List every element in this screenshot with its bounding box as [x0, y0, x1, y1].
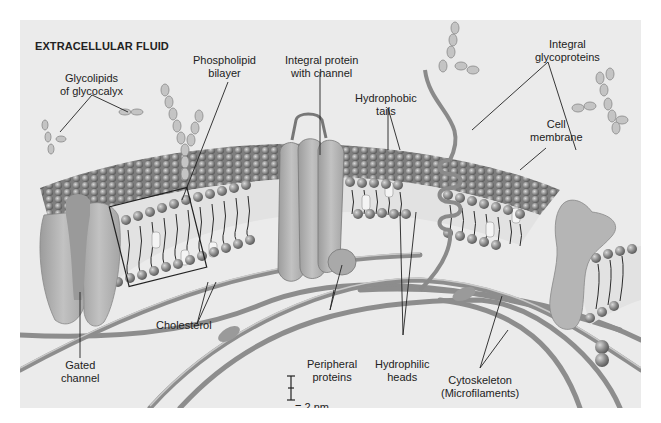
integral-protein-channel-label: Integral proteinwith channel: [285, 54, 358, 80]
cytoskeleton-label: Cytoskeleton(Microfilaments): [441, 374, 519, 400]
cell-membrane-figure: EXTRACELLULAR FLUID CYTOSOL = 2 nm Glyco…: [20, 20, 641, 408]
scale-bar-icon: [287, 376, 295, 400]
phospholipid-bilayer-label: Phospholipidbilayer: [193, 54, 256, 80]
hydrophobic-tails-label: Hydrophobictails: [355, 92, 417, 118]
peripheral-protein: [328, 249, 356, 275]
extracellular-fluid-label: EXTRACELLULAR FLUID: [35, 40, 169, 53]
gated-channel-label: Gatedchannel: [61, 359, 100, 385]
cholesterol-label: Cholesterol: [156, 319, 212, 332]
integral-glycoproteins-label: Integralglycoproteins: [535, 38, 600, 64]
glycolipids-label: Glycolipidsof glycocalyx: [60, 72, 123, 98]
hydrophilic-heads-label: Hydrophilicheads: [375, 358, 429, 384]
scale-bar-label: = 2 nm: [295, 401, 329, 408]
peripheral-proteins-label: Peripheralproteins: [307, 358, 357, 384]
cell-membrane-label: Cellmembrane: [530, 118, 583, 144]
